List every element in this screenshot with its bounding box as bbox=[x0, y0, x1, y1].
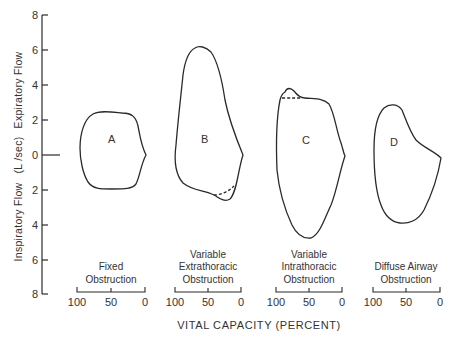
scale-b-0: 0 bbox=[238, 296, 244, 308]
loop-a bbox=[80, 112, 146, 189]
y-tick-label: 4 bbox=[32, 219, 38, 231]
scale-d-0: 0 bbox=[437, 296, 443, 308]
y-tick-labels: 8 6 4 2 0 2 4 6 8 bbox=[32, 9, 38, 300]
y-tick-label: 0 bbox=[32, 149, 38, 161]
volume-scale-labels: 100 50 0 100 50 0 100 50 0 100 50 0 bbox=[68, 296, 443, 308]
scale-b-100: 100 bbox=[166, 296, 184, 308]
caption-d-line2: Obstruction bbox=[380, 274, 431, 285]
loop-a-letter: A bbox=[108, 133, 116, 145]
y-tick-label: 6 bbox=[32, 254, 38, 266]
y-tick-label: 6 bbox=[32, 44, 38, 56]
caption-c-line3: Obstruction bbox=[283, 274, 334, 285]
y-axis-title-expiratory: Expiratory Flow bbox=[12, 51, 24, 128]
y-axis bbox=[42, 15, 60, 294]
scale-b-50: 50 bbox=[202, 296, 214, 308]
y-tick-label: 4 bbox=[32, 79, 38, 91]
y-tick-label: 2 bbox=[32, 184, 38, 196]
caption-b-line3: Obstruction bbox=[182, 274, 233, 285]
scale-a-0: 0 bbox=[142, 296, 148, 308]
y-axis-title-units: (L /sec) bbox=[12, 136, 24, 173]
x-axis-title: VITAL CAPACITY (PERCENT) bbox=[177, 319, 341, 331]
caption-c-line1: Variable bbox=[291, 249, 327, 260]
y-tick-label: 8 bbox=[32, 288, 38, 300]
caption-d-line1: Diffuse Airway bbox=[374, 261, 437, 272]
scale-a-100: 100 bbox=[68, 296, 86, 308]
caption-b-line1: Variable bbox=[190, 249, 226, 260]
loop-captions: Fixed Obstruction Variable Extrathoracic… bbox=[85, 249, 437, 285]
loop-c bbox=[276, 89, 345, 239]
loop-b-letter: B bbox=[201, 133, 208, 145]
loop-d bbox=[374, 105, 441, 223]
scale-c-100: 100 bbox=[267, 296, 285, 308]
flow-volume-figure: 8 6 4 2 0 2 4 6 8 Expiratory Flow (L /se… bbox=[0, 0, 452, 338]
volume-scales bbox=[77, 287, 440, 292]
loop-b bbox=[175, 47, 243, 201]
loop-d-letter: D bbox=[390, 136, 398, 148]
y-tick-label: 8 bbox=[32, 9, 38, 21]
scale-c-0: 0 bbox=[339, 296, 345, 308]
scale-c-50: 50 bbox=[303, 296, 315, 308]
scale-d-100: 100 bbox=[364, 296, 382, 308]
y-tick-label: 2 bbox=[32, 114, 38, 126]
caption-a-line1: Fixed bbox=[99, 261, 123, 272]
caption-b-line2: Extrathoracic bbox=[179, 261, 237, 272]
caption-c-line2: Intrathoracic bbox=[281, 261, 336, 272]
caption-a-line2: Obstruction bbox=[85, 274, 136, 285]
y-axis-title-inspiratory: Inspiratory Flow bbox=[12, 182, 24, 261]
loop-c-letter: C bbox=[302, 134, 310, 146]
scale-a-50: 50 bbox=[105, 296, 117, 308]
scale-d-50: 50 bbox=[400, 296, 412, 308]
